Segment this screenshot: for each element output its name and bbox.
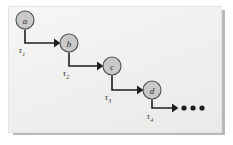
- edge-label-tau-1-subscript: 1: [22, 51, 25, 57]
- edge-tau-4-arrowhead: [172, 104, 178, 113]
- ellipsis-dot-2: [190, 105, 195, 110]
- edge-tau-2-path: [69, 53, 97, 67]
- edge-tau-3: τ3: [105, 76, 144, 104]
- node-d[interactable]: d: [143, 81, 161, 99]
- continuation-ellipsis-icon: [181, 105, 204, 110]
- node-b[interactable]: b: [60, 34, 78, 52]
- edge-tau-1: τ1: [19, 30, 61, 57]
- edge-label-tau-4-subscript: 4: [150, 117, 153, 123]
- edge-tau-4-path: [152, 100, 172, 109]
- edge-tau-1-path: [25, 30, 54, 44]
- chain-diagram: τ1 τ2 τ3 τ4 a b: [0, 0, 233, 145]
- node-c-label: c: [110, 62, 114, 72]
- edge-tau-3-path: [112, 76, 137, 91]
- edge-tau-2: τ2: [63, 53, 104, 80]
- edge-label-tau-2-subscript: 2: [66, 74, 69, 80]
- ellipsis-dot-3: [199, 105, 204, 110]
- node-a[interactable]: a: [16, 11, 34, 29]
- edge-label-tau-1: τ1: [19, 45, 26, 57]
- edge-tau-3-arrowhead: [137, 86, 143, 95]
- edge-label-tau-3-subscript: 3: [107, 98, 111, 104]
- node-b-label: b: [67, 39, 72, 49]
- edge-label-tau-4: τ4: [147, 111, 154, 123]
- edge-tau-1-arrowhead: [54, 39, 60, 48]
- diagram-screenshot: τ1 τ2 τ3 τ4 a b: [0, 0, 233, 145]
- node-a-label: a: [23, 16, 28, 26]
- node-d-label: d: [150, 86, 155, 96]
- edge-tau-4: τ4: [147, 100, 179, 123]
- node-c[interactable]: c: [103, 57, 121, 75]
- edge-label-tau-3: τ3: [105, 92, 112, 104]
- edge-label-tau-2: τ2: [63, 68, 70, 80]
- ellipsis-dot-1: [181, 105, 186, 110]
- edge-tau-2-arrowhead: [97, 62, 103, 71]
